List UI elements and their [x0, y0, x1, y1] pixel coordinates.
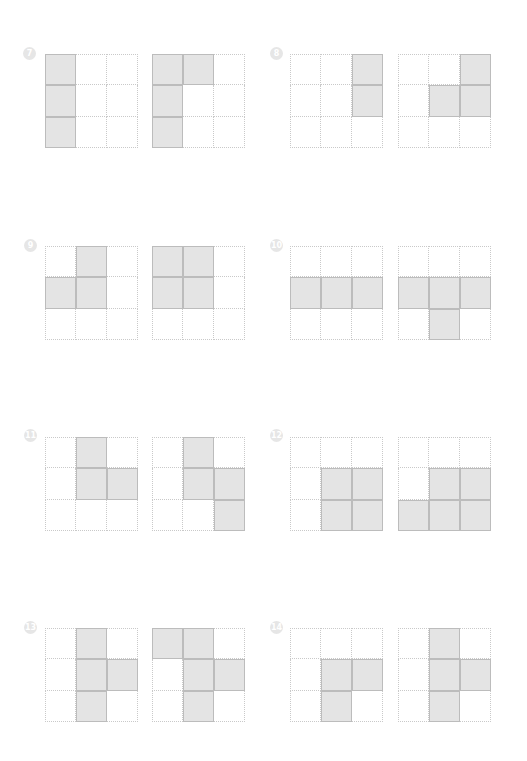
grid-cell-filled [183, 468, 214, 499]
grid-cell-filled [76, 246, 107, 277]
grid-cell-filled [352, 277, 383, 308]
grid-cell-empty [152, 437, 183, 468]
grid-cell-filled [107, 468, 138, 499]
grid-cell-empty [429, 437, 460, 468]
grid-cell-filled [45, 277, 76, 308]
grid-cell-empty [214, 628, 245, 659]
grid-cell-empty [398, 691, 429, 722]
grid-left [45, 437, 138, 531]
grid-cell-empty [214, 691, 245, 722]
grid-cell-filled [352, 85, 383, 116]
grid-cell-empty [352, 437, 383, 468]
grid-cell-filled [76, 628, 107, 659]
grid-cell-empty [107, 277, 138, 308]
grid-cell-empty [152, 500, 183, 531]
grid-cell-empty [321, 85, 352, 116]
grid-cell-empty [321, 628, 352, 659]
grid-left [290, 246, 383, 340]
grid-cell-empty [398, 437, 429, 468]
grid-cell-filled [76, 437, 107, 468]
grid-cell-empty [45, 246, 76, 277]
grid-cell-empty [76, 500, 107, 531]
problem-number-badge: 10 [270, 239, 283, 252]
grid-cell-filled [460, 277, 491, 308]
grid-cell-empty [290, 309, 321, 340]
grid-cell-empty [460, 246, 491, 277]
grid-cell-empty [290, 54, 321, 85]
grid-cell-empty [45, 628, 76, 659]
grid-cell-empty [290, 659, 321, 690]
grid-cell-empty [107, 500, 138, 531]
grid-cell-empty [107, 246, 138, 277]
grid-cell-filled [290, 277, 321, 308]
grid-cell-empty [107, 117, 138, 148]
grid-cell-empty [290, 246, 321, 277]
grid-cell-filled [321, 659, 352, 690]
grid-cell-filled [183, 246, 214, 277]
grid-cell-empty [352, 246, 383, 277]
grid-cell-empty [290, 117, 321, 148]
grid-cell-filled [76, 468, 107, 499]
grid-cell-empty [152, 309, 183, 340]
grid-cell-empty [460, 117, 491, 148]
grid-cell-filled [152, 277, 183, 308]
grid-cell-filled [183, 628, 214, 659]
grid-cell-empty [214, 117, 245, 148]
grid-cell-empty [352, 691, 383, 722]
grid-cell-empty [45, 437, 76, 468]
grid-cell-empty [352, 309, 383, 340]
grid-right [398, 54, 491, 148]
grid-right [152, 437, 245, 531]
grid-cell-filled [214, 468, 245, 499]
grid-cell-empty [398, 54, 429, 85]
grid-cell-empty [45, 500, 76, 531]
grid-cell-empty [152, 468, 183, 499]
grid-cell-empty [429, 117, 460, 148]
grid-cell-filled [183, 691, 214, 722]
grid-cell-empty [290, 500, 321, 531]
grid-cell-empty [398, 117, 429, 148]
grid-cell-filled [321, 691, 352, 722]
grid-cell-empty [214, 437, 245, 468]
grid-cell-empty [152, 659, 183, 690]
grid-cell-empty [321, 246, 352, 277]
grid-cell-empty [183, 309, 214, 340]
grid-cell-empty [45, 691, 76, 722]
grid-cell-empty [398, 309, 429, 340]
grid-cell-filled [183, 659, 214, 690]
grid-cell-empty [290, 628, 321, 659]
grid-right [152, 246, 245, 340]
grid-cell-empty [352, 117, 383, 148]
grid-cell-empty [352, 628, 383, 659]
grid-cell-filled [429, 628, 460, 659]
problem-number-badge: 11 [24, 429, 37, 442]
grid-cell-filled [321, 468, 352, 499]
grid-cell-empty [214, 277, 245, 308]
grid-cell-filled [460, 659, 491, 690]
grid-right [398, 437, 491, 531]
grid-cell-empty [398, 659, 429, 690]
grid-cell-empty [460, 437, 491, 468]
grid-cell-filled [429, 468, 460, 499]
grid-cell-empty [107, 437, 138, 468]
grid-left [45, 628, 138, 722]
grid-cell-filled [76, 659, 107, 690]
grid-cell-filled [429, 691, 460, 722]
grid-cell-filled [460, 54, 491, 85]
grid-cell-filled [45, 117, 76, 148]
grid-cell-empty [107, 628, 138, 659]
grid-cell-filled [429, 500, 460, 531]
grid-cell-empty [398, 85, 429, 116]
grid-cell-empty [290, 691, 321, 722]
grid-cell-empty [290, 468, 321, 499]
grid-right [398, 628, 491, 722]
grid-cell-filled [183, 277, 214, 308]
problem-14: 14 [0, 0, 240, 110]
grid-cell-empty [321, 54, 352, 85]
grid-cell-filled [352, 500, 383, 531]
grid-cell-filled [76, 691, 107, 722]
grid-cell-empty [398, 468, 429, 499]
grid-cell-empty [321, 309, 352, 340]
grid-cell-filled [214, 500, 245, 531]
problem-number-badge: 8 [270, 47, 283, 60]
